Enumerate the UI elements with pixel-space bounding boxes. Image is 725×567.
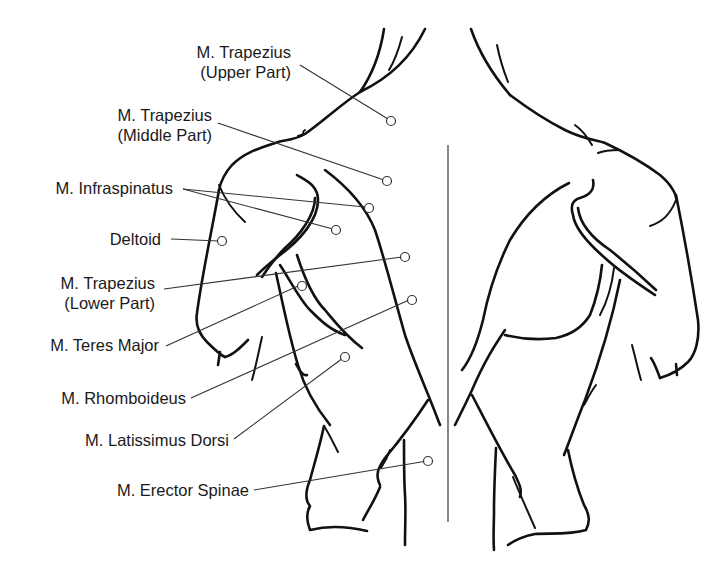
marker-latissimus-dorsi — [341, 353, 350, 362]
marker-erector-spinae — [424, 457, 433, 466]
right-back-outline — [455, 29, 698, 550]
label-trapezius-middle-line1: M. Trapezius — [118, 105, 212, 125]
label-infraspinatus-line1: M. Infraspinatus — [56, 178, 173, 198]
label-rhomboideus: M. Rhomboideus — [61, 388, 186, 408]
marker-trapezius-middle — [383, 177, 392, 186]
leader-teres-major — [166, 286, 298, 346]
left-back-outline — [197, 29, 440, 545]
label-latissimus-dorsi: M. Latissimus Dorsi — [85, 430, 229, 450]
leader-rhomboideus — [191, 300, 409, 398]
marker-trapezius-upper — [387, 117, 396, 126]
label-teres-major: M. Teres Major — [50, 335, 159, 355]
label-trapezius-upper-line1: M. Trapezius — [197, 42, 291, 62]
label-trapezius-lower: M. Trapezius (Lower Part) — [61, 273, 155, 313]
label-trapezius-upper-line2: (Upper Part) — [197, 62, 291, 82]
marker-infraspinatus-a — [365, 204, 374, 213]
marker-teres-major — [298, 282, 307, 291]
marker-deltoid — [218, 237, 227, 246]
label-deltoid-line1: Deltoid — [110, 229, 161, 249]
label-teres-major-line1: M. Teres Major — [50, 335, 159, 355]
leader-erector-spinae — [254, 461, 427, 490]
leader-trapezius-lower — [164, 257, 402, 289]
label-trapezius-middle-line2: (Middle Part) — [118, 125, 212, 145]
leader-trapezius-upper — [300, 65, 388, 119]
label-erector-spinae: M. Erector Spinae — [117, 480, 249, 500]
leader-deltoid — [171, 239, 219, 241]
label-trapezius-upper: M. Trapezius (Upper Part) — [197, 42, 291, 82]
label-trapezius-lower-line1: M. Trapezius — [61, 273, 155, 293]
leader-infraspinatus-b — [183, 189, 333, 229]
label-rhomboideus-line1: M. Rhomboideus — [61, 388, 186, 408]
marker-infraspinatus-b — [332, 226, 341, 235]
label-infraspinatus: M. Infraspinatus — [56, 178, 173, 198]
marker-trapezius-lower — [401, 253, 410, 262]
label-trapezius-lower-line2: (Lower Part) — [61, 293, 155, 313]
back-muscles-diagram: M. Trapezius (Upper Part) M. Trapezius (… — [0, 0, 725, 567]
leader-latissimus-dorsi — [234, 358, 343, 439]
label-latissimus-dorsi-line1: M. Latissimus Dorsi — [85, 430, 229, 450]
label-deltoid: Deltoid — [110, 229, 161, 249]
label-trapezius-middle: M. Trapezius (Middle Part) — [118, 105, 212, 145]
marker-rhomboideus — [408, 296, 417, 305]
leader-infraspinatus-a — [183, 189, 365, 207]
label-erector-spinae-line1: M. Erector Spinae — [117, 480, 249, 500]
leader-trapezius-middle — [218, 123, 384, 180]
